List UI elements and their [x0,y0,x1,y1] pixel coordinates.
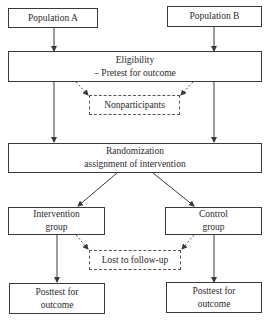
node-label: assignment of intervention [84,158,185,171]
node-population-b: Population B [167,6,262,27]
arrow-eligibility-to-nonparticipants-right [181,82,193,95]
node-label: Control [199,208,228,221]
arrow-eligibility-to-nonparticipants-left [76,82,88,95]
node-label: group [45,221,67,234]
node-control-group: Control group [165,207,262,235]
node-label: Nonparticipants [104,99,165,112]
node-label: Posttest for [35,286,78,299]
node-posttest-left: Posttest for outcome [9,283,105,314]
node-randomization: Randomization assignment of intervention [8,143,262,173]
node-posttest-right: Posttest for outcome [166,282,262,313]
node-label: – Pretest for outcome [94,67,176,80]
node-label: outcome [198,298,231,311]
node-intervention-group: Intervention group [8,207,105,235]
node-population-a: Population A [8,8,98,28]
node-label: Population B [190,10,240,23]
node-nonparticipants: Nonparticipants [89,95,180,115]
node-label: Eligibility [116,54,155,67]
node-label: group [202,221,224,234]
arrow-randomization-to-intervention [78,173,117,206]
node-label: Population A [28,12,78,25]
arrow-randomization-to-control [153,173,194,206]
node-label: outcome [41,299,74,312]
node-label: Intervention [33,208,79,221]
node-lost-to-follow-up: Lost to follow-up [89,250,181,270]
node-label: Posttest for [192,285,235,298]
node-label: Randomization [106,145,164,158]
arrow-control-to-lost [182,235,194,249]
node-eligibility: Eligibility – Pretest for outcome [8,51,262,82]
arrow-intervention-to-lost [76,235,88,249]
node-label: Lost to follow-up [102,254,169,267]
